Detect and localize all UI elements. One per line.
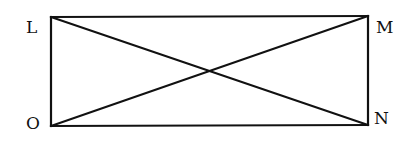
vertex-label-l: L: [26, 17, 37, 37]
side-lm: [51, 16, 368, 17]
side-no: [51, 125, 368, 126]
diagonals: [51, 16, 368, 126]
vertex-label-n: N: [374, 108, 389, 128]
vertex-label-m: M: [376, 17, 393, 37]
rectangle-diagram: L M N O: [0, 0, 418, 144]
vertex-label-o: O: [26, 113, 40, 133]
